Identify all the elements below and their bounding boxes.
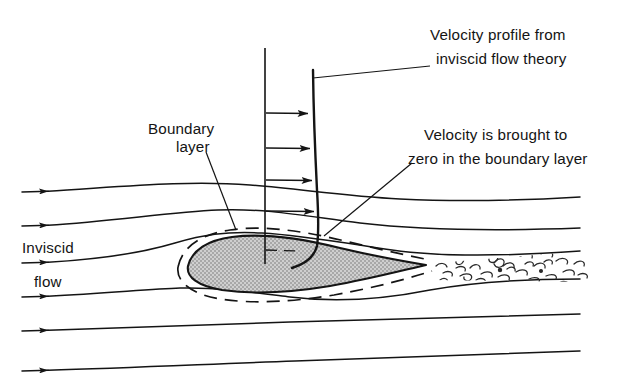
label-inviscid-flow-line1: Inviscid	[22, 239, 74, 256]
leader-velocity-profile	[313, 66, 430, 78]
streamline-5	[22, 314, 580, 331]
velocity-arrow-group	[266, 113, 314, 212]
velocity-arrow-3	[266, 180, 312, 181]
label-boundary-layer-line2: layer	[176, 138, 210, 155]
label-velocity-zero-line1: Velocity is brought to	[424, 126, 567, 143]
velocity-arrow-4	[266, 211, 314, 212]
velocity-arrow-2	[266, 148, 310, 149]
streamline-2	[22, 210, 580, 230]
turbulent-wake	[436, 250, 587, 290]
streamline-6	[22, 351, 580, 371]
label-velocity-profile-line1: Velocity profile from	[430, 26, 566, 43]
streamline-1	[22, 183, 580, 200]
airfoil-boundary-layer-figure: Boundary layer Inviscid flow Velocity pr…	[0, 0, 635, 390]
label-velocity-profile-line2: inviscid flow theory	[436, 50, 567, 67]
label-velocity-zero-line2: zero in the boundary layer	[408, 150, 588, 167]
figure-canvas: Boundary layer Inviscid flow Velocity pr…	[0, 0, 635, 390]
label-inviscid-flow-line2: flow	[34, 273, 62, 290]
velocity-arrow-1	[266, 113, 308, 114]
leader-boundary-layer	[206, 152, 236, 230]
airfoil-body	[188, 236, 426, 293]
label-boundary-layer-line1: Boundary	[148, 120, 214, 137]
